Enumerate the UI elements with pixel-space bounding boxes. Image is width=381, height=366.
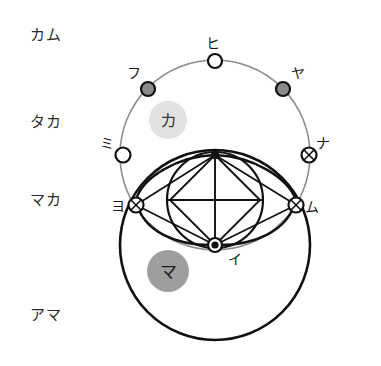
level-label-ama: アマ (30, 306, 62, 324)
diagram-canvas: カ マ ヒ フ ヤ ミ (0, 0, 381, 366)
node-mi[interactable]: ミ (100, 135, 131, 163)
badge-ka-label: カ (160, 111, 177, 131)
node-fu-label: フ (127, 65, 141, 81)
node-fu[interactable]: フ (127, 65, 155, 96)
kotodama-diagram: カ マ ヒ フ ヤ ミ (0, 0, 381, 366)
level-label-kamu: カム (30, 26, 62, 44)
badge-ma-label: マ (160, 262, 177, 282)
node-i-label: イ (228, 251, 242, 267)
badge-ka-group: カ (149, 101, 187, 139)
level-labels-group: カム タカ マカ アマ (30, 26, 62, 324)
node-na-label: ナ (316, 135, 330, 151)
node-hi-label: ヒ (206, 35, 220, 51)
node-top-vertex[interactable] (211, 151, 219, 159)
node-mu-label: ム (305, 199, 319, 215)
node-fu-marker[interactable] (141, 82, 155, 96)
node-mi-marker[interactable] (116, 148, 131, 163)
level-label-taka: タカ (30, 113, 62, 131)
node-na[interactable]: ナ (302, 135, 331, 163)
badge-ma-group: マ (147, 250, 189, 292)
node-ya[interactable]: ヤ (276, 65, 305, 96)
node-yo-label: ヨ (111, 198, 125, 214)
level-label-maka: マカ (30, 191, 62, 209)
node-ya-label: ヤ (291, 65, 305, 81)
node-ya-marker[interactable] (276, 82, 290, 96)
node-i-marker-core (211, 241, 218, 248)
node-hi[interactable]: ヒ (206, 35, 222, 68)
node-hi-marker[interactable] (208, 54, 222, 68)
node-mi-label: ミ (100, 135, 114, 151)
